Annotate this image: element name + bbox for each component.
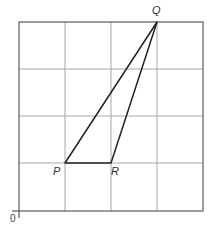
point-label-p: P (53, 165, 61, 177)
gridlines (19, 22, 203, 211)
point-label-q: Q (152, 4, 161, 16)
origin-label: 0 (10, 213, 16, 224)
grid-diagram: Q P R 0 (0, 0, 211, 232)
point-label-r: R (111, 165, 119, 177)
